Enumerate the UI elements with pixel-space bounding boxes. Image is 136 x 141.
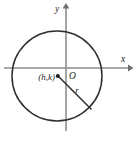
x-axis-arrowhead-icon: [128, 65, 134, 72]
y-axis-arrowhead-icon: [63, 3, 70, 9]
y-axis-group: [63, 3, 70, 131]
center-point-label: (h,k): [38, 72, 55, 82]
radius-label: r: [75, 85, 79, 95]
circle-diagram-figure: y x O (h,k) r: [0, 0, 136, 141]
center-point-marker: [56, 74, 60, 78]
x-axis-label: x: [120, 54, 126, 64]
origin-label: O: [69, 71, 76, 81]
y-axis-label: y: [54, 4, 60, 14]
circle-diagram-canvas: y x O (h,k) r: [0, 0, 136, 141]
